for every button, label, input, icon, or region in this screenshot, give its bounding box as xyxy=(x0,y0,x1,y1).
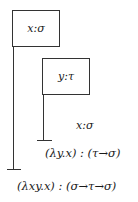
outer-assumption-label: x:σ xyxy=(27,23,44,34)
outer-scope-end-tick xyxy=(7,169,21,170)
inner-assumption-box: y:τ xyxy=(42,58,90,95)
outer-scope-line xyxy=(13,47,14,169)
inner-scope-end-tick xyxy=(37,140,52,141)
outer-assumption-box: x:σ xyxy=(12,10,60,47)
inner-conclusion: (λy.x) : (τ→σ) xyxy=(45,148,120,160)
fitch-diagram: x:σ y:τ x:σ (λy.x) : (τ→σ) (λxy.x) : (σ→… xyxy=(0,0,138,202)
inner-assumption-label: y:τ xyxy=(58,71,74,82)
inner-scope-line xyxy=(43,95,44,140)
reiteration-line: x:σ xyxy=(76,120,93,131)
outer-conclusion: (λxy.x) : (σ→τ→σ) xyxy=(17,181,116,193)
